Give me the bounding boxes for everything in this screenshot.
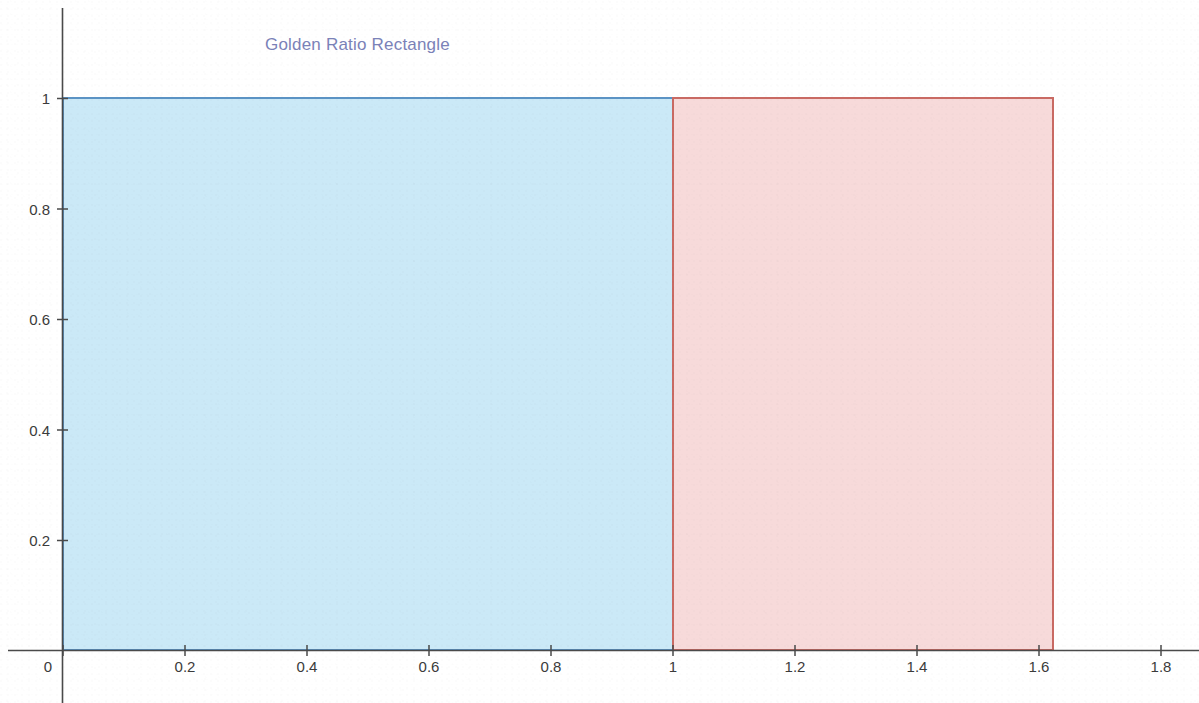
golden-extension-rectangle-shape <box>673 98 1053 650</box>
y-axis-tick-labels: 0.2 0.4 0.6 0.8 1 <box>29 90 50 549</box>
x-tick-label-origin: 0 <box>44 658 52 675</box>
x-tick-label-4: 0.8 <box>541 658 562 675</box>
plot-shapes <box>63 98 1053 650</box>
x-tick-label-1: 0.2 <box>175 658 196 675</box>
x-axis-tick-labels: 0 0.2 0.4 0.6 0.8 1 1.2 1.4 1.6 1.8 <box>44 658 1172 675</box>
y-tick-label-2: 0.6 <box>29 311 50 328</box>
x-tick-label-6: 1.2 <box>785 658 806 675</box>
x-tick-label-9: 1.8 <box>1151 658 1172 675</box>
golden-ratio-rectangle-plot: 0 0.2 0.4 0.6 0.8 1 1.2 1.4 1.6 1.8 0.2 … <box>0 0 1199 703</box>
x-tick-label-7: 1.4 <box>907 658 928 675</box>
chart-figure: 0 0.2 0.4 0.6 0.8 1 1.2 1.4 1.6 1.8 0.2 … <box>0 0 1199 703</box>
y-tick-label-4: 1 <box>42 90 50 107</box>
x-tick-label-5: 1 <box>669 658 677 675</box>
x-tick-label-3: 0.6 <box>419 658 440 675</box>
y-tick-label-1: 0.4 <box>29 422 50 439</box>
unit-square-shape <box>63 98 673 650</box>
chart-title: Golden Ratio Rectangle <box>265 35 450 54</box>
y-tick-label-3: 0.8 <box>29 201 50 218</box>
x-tick-label-2: 0.4 <box>297 658 318 675</box>
x-tick-label-8: 1.6 <box>1029 658 1050 675</box>
y-tick-label-0: 0.2 <box>29 532 50 549</box>
